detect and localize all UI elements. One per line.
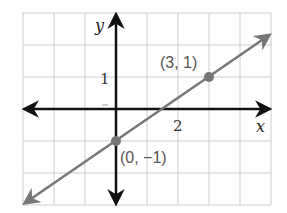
point-0-neg1 — [111, 136, 121, 146]
coordinate-plane: y x 1 2 (3, 1) (0, −1) — [0, 0, 287, 213]
point-3-1 — [204, 72, 214, 82]
point-label-0-neg1: (0, −1) — [120, 149, 167, 166]
x-axis-label: x — [256, 117, 265, 136]
x-tick-label-2: 2 — [173, 117, 183, 135]
y-tick-label-1: 1 — [100, 70, 110, 88]
point-label-3-1: (3, 1) — [160, 54, 197, 71]
y-axis-label: y — [94, 16, 105, 35]
